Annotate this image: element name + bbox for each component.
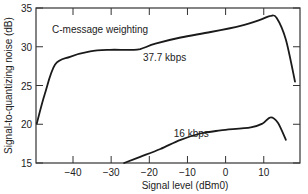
x-tick-label: −30 <box>103 167 120 178</box>
snr-vs-signal-level-chart: −40−30−20−100101520253035 37.7 kbps16 kb… <box>0 0 308 194</box>
y-axis-label: Signal-to-quantizing noise (dB) <box>3 17 14 154</box>
x-tick-label: 10 <box>258 167 270 178</box>
weighting-annotation: C-message weighting <box>52 24 148 35</box>
y-tick-label: 30 <box>21 42 33 53</box>
chart-canvas: −40−30−20−100101520253035 37.7 kbps16 kb… <box>0 0 308 194</box>
y-tick-label: 25 <box>21 81 33 92</box>
x-tick-label: −10 <box>179 167 196 178</box>
x-axis-label: Signal level (dBm0) <box>142 180 229 191</box>
x-tick-label: −40 <box>65 167 82 178</box>
x-tick-label: 0 <box>223 167 229 178</box>
series-line <box>124 117 286 163</box>
chart-labels: C-message weighting Signal level (dBm0) … <box>3 17 228 191</box>
series-label: 16 kbps <box>174 128 209 139</box>
y-tick-label: 35 <box>21 3 33 14</box>
y-tick-label: 20 <box>21 119 33 130</box>
series-label: 37.7 kbps <box>143 52 186 63</box>
y-tick-label: 15 <box>21 158 33 169</box>
x-tick-label: −20 <box>141 167 158 178</box>
data-series: 37.7 kbps16 kbps <box>37 15 295 163</box>
